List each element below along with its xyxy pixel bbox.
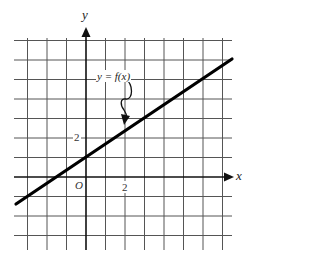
origin-label: O xyxy=(75,179,83,191)
x-axis-label: x xyxy=(236,168,242,184)
y-tick-2: 2 xyxy=(73,131,81,143)
curve-label: y = f(x) xyxy=(96,70,131,82)
y-axis-label: y xyxy=(82,7,88,23)
x-tick-2: 2 xyxy=(121,181,129,193)
